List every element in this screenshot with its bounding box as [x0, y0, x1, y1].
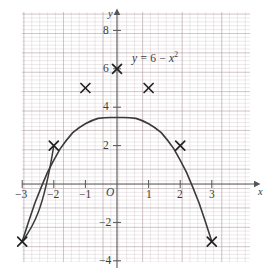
- data-point-marker: [144, 84, 153, 93]
- x-tick-label: 3: [209, 188, 215, 200]
- y-tick-label: 8: [103, 24, 109, 36]
- x-tick-label: −2: [47, 188, 59, 200]
- chart-figure: −3 −2 −1 1 2 3 8 6 4 2 −2 −4 O x y y = 6…: [0, 0, 275, 280]
- y-tick-label: −4: [99, 254, 111, 266]
- data-point-marker: [207, 237, 216, 246]
- y-tick-label: −2: [99, 216, 111, 228]
- data-point-marker: [81, 84, 90, 93]
- plot-area: [0, 0, 275, 280]
- x-tick-label: 2: [177, 188, 183, 200]
- x-axis-label: x: [258, 186, 263, 197]
- x-tick-label: −1: [79, 188, 91, 200]
- data-point-marker: [18, 237, 27, 246]
- origin-label: O: [106, 186, 114, 198]
- equation-exponent: 2: [174, 50, 178, 59]
- equation-annotation: y = 6 − x2: [132, 50, 178, 64]
- y-tick-label: 4: [103, 100, 109, 112]
- x-tick-label: −3: [15, 188, 27, 200]
- equation-minus: −: [159, 52, 166, 64]
- y-axis-label: y: [108, 8, 113, 19]
- y-tick-label: 2: [103, 139, 109, 151]
- x-tick-label: 1: [146, 188, 152, 200]
- data-point-marker: [176, 141, 185, 150]
- y-tick-label: 6: [103, 62, 109, 74]
